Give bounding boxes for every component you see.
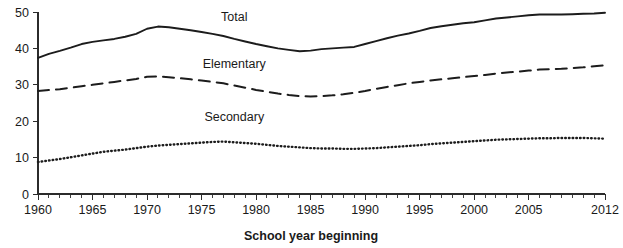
series-label-secondary: Secondary [204, 110, 265, 124]
y-tick-label: 0 [22, 188, 29, 202]
x-tick-label: 2012 [591, 203, 619, 217]
x-tick-label: 1975 [188, 203, 216, 217]
x-tick-label: 1985 [297, 203, 325, 217]
y-axis: 01020304050 [15, 6, 38, 202]
x-tick-label: 1995 [406, 203, 434, 217]
x-axis-title: School year beginning [244, 229, 378, 243]
x-tick-label: 1960 [24, 203, 52, 217]
series-line-secondary [38, 138, 605, 162]
series-layer [38, 13, 605, 162]
y-tick-label: 40 [15, 42, 29, 56]
x-axis: 1960196519701975198019851990199520002005… [24, 194, 619, 217]
series-label-layer: TotalElementarySecondary [203, 10, 267, 124]
x-tick-label: 1990 [351, 203, 379, 217]
x-tick-label: 2000 [460, 203, 488, 217]
y-tick-label: 20 [15, 115, 29, 129]
chart-canvas: 01020304050 1960196519701975198019851990… [0, 0, 623, 248]
x-tick-label: 1980 [242, 203, 270, 217]
series-label-elementary: Elementary [203, 57, 267, 71]
series-line-total [38, 13, 605, 58]
x-tick-label: 2005 [515, 203, 543, 217]
y-tick-label: 30 [15, 78, 29, 92]
series-line-elementary [38, 65, 605, 96]
y-tick-label: 10 [15, 151, 29, 165]
x-tick-label: 1965 [79, 203, 107, 217]
y-tick-label: 50 [15, 6, 29, 20]
series-label-total: Total [221, 10, 247, 24]
x-tick-label: 1970 [133, 203, 161, 217]
line-chart: 01020304050 1960196519701975198019851990… [0, 0, 623, 248]
